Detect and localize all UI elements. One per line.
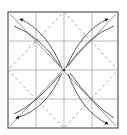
- center-point: [63, 69, 65, 71]
- origami-fold-diagram: [0, 0, 127, 135]
